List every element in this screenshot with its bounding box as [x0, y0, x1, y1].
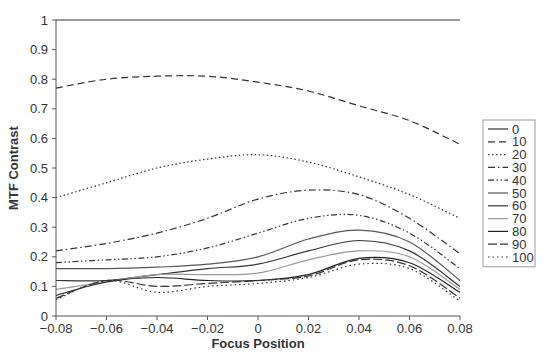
series-line-20 [56, 155, 460, 219]
y-tick-label: 0.3 [30, 220, 48, 235]
y-tick-label: 0.2 [30, 249, 48, 264]
chart-canvas: 00.10.20.30.40.50.60.70.80.91−0.08−0.06−… [0, 0, 551, 364]
legend-label-100: 100 [512, 250, 534, 265]
y-tick-label: 0.5 [30, 161, 48, 176]
x-tick-label: 0 [254, 321, 261, 336]
y-tick-label: 0.4 [30, 190, 48, 205]
x-tick-label: −0.06 [90, 321, 123, 336]
series-line-10 [56, 76, 460, 145]
plot-series-group [56, 20, 460, 301]
mtf-line-chart: 00.10.20.30.40.50.60.70.80.91−0.08−0.06−… [0, 0, 551, 364]
legend: 0102030405060708090100 [483, 120, 535, 267]
tick-labels-group: 00.10.20.30.40.50.60.70.80.91−0.08−0.06−… [30, 13, 473, 337]
y-tick-label: 0.9 [30, 42, 48, 57]
x-tick-label: −0.08 [40, 321, 73, 336]
y-tick-label: 0.6 [30, 131, 48, 146]
x-tick-label: −0.04 [141, 321, 174, 336]
x-tick-label: 0.02 [296, 321, 321, 336]
x-tick-label: 0.08 [447, 321, 472, 336]
series-line-30 [56, 190, 460, 254]
x-tick-label: 0.06 [397, 321, 422, 336]
y-tick-label: 0.7 [30, 101, 48, 116]
x-tick-label: −0.02 [191, 321, 224, 336]
axes-group [52, 20, 460, 320]
x-axis-label: Focus Position [211, 336, 304, 351]
y-tick-label: 1 [41, 13, 48, 28]
series-line-60 [56, 241, 460, 287]
y-tick-label: 0.8 [30, 72, 48, 87]
y-axis-label: MTF Contrast [6, 125, 21, 209]
y-tick-label: 0.1 [30, 279, 48, 294]
series-line-90 [56, 259, 460, 298]
x-tick-label: 0.04 [346, 321, 371, 336]
